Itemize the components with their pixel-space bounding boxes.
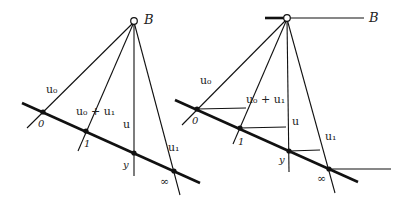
- right-label-y: y: [278, 154, 285, 165]
- right-label-u0: u₀: [200, 74, 212, 87]
- right-point-infinity: [326, 166, 331, 171]
- left-point-zero: [40, 109, 45, 114]
- left-label-y: y: [122, 159, 129, 170]
- right-apex-label: B: [368, 10, 379, 25]
- left-label-one: 1: [84, 138, 90, 149]
- diagram-canvas: B u₀ u₀ + u₁ u u₁ 0 1 y ∞ B: [0, 0, 408, 204]
- left-apex-label: B: [143, 12, 154, 27]
- right-label-u: u: [292, 115, 299, 128]
- right-label-one: 1: [238, 136, 244, 147]
- left-label-u1: u₁: [168, 141, 180, 154]
- left-label-zero: 0: [38, 118, 45, 129]
- right-horizontal-zero: [197, 108, 246, 109]
- left-label-infinity: ∞: [160, 175, 169, 188]
- left-point-y: [131, 150, 136, 155]
- right-horizontal-one: [240, 127, 286, 128]
- left-label-u0: u₀: [46, 83, 58, 96]
- left-label-u0-plus-u1: u₀ + u₁: [76, 105, 115, 118]
- left-point-infinity: [171, 168, 176, 173]
- right-label-u1: u₁: [325, 130, 337, 143]
- right-point-zero: [194, 106, 199, 111]
- right-label-infinity: ∞: [317, 172, 326, 185]
- right-diagram: B u₀ u₀ + u₁ u u₁ 0 1 y ∞: [175, 10, 391, 193]
- left-diagram: B u₀ u₀ + u₁ u u₁ 0 1 y ∞: [22, 12, 200, 195]
- right-horizontal-y: [289, 150, 320, 151]
- left-label-u: u: [123, 118, 130, 131]
- right-apex-B: [284, 15, 291, 22]
- left-point-one: [83, 128, 88, 133]
- right-point-y: [286, 148, 291, 153]
- right-point-one: [237, 125, 242, 130]
- right-ray-u0-plus-u1: [233, 19, 287, 144]
- right-label-u0-plus-u1: u₀ + u₁: [246, 93, 285, 106]
- left-apex-B: [131, 18, 138, 25]
- right-label-zero: 0: [192, 115, 199, 126]
